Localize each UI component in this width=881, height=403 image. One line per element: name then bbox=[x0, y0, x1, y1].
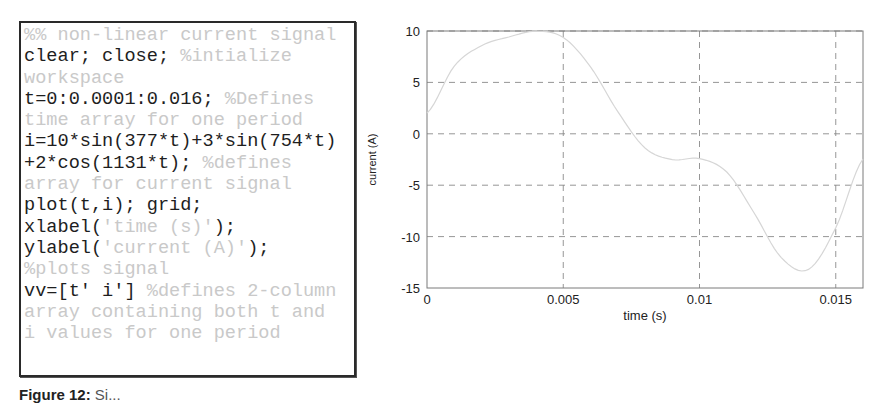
current-curve bbox=[427, 31, 863, 271]
x-axis-label: time (s) bbox=[623, 308, 666, 323]
axis-ticks: 1050-5-10-1500.0050.010.015 bbox=[401, 24, 852, 307]
caption-text: Si... bbox=[95, 386, 121, 403]
x-tick-label: 0 bbox=[423, 292, 430, 307]
y-tick-label: -15 bbox=[401, 281, 420, 296]
figure-caption: Figure 12: Si... bbox=[19, 386, 121, 403]
x-tick-label: 0.015 bbox=[819, 292, 852, 307]
y-tick-label: 5 bbox=[413, 75, 420, 90]
plot-frame bbox=[427, 31, 863, 288]
y-tick-label: -10 bbox=[401, 230, 420, 245]
x-tick-label: 0.01 bbox=[687, 292, 712, 307]
y-axis-label: current (A) bbox=[366, 134, 378, 186]
grid-lines bbox=[427, 31, 863, 288]
caption-label: Figure 12: bbox=[19, 386, 91, 403]
x-tick-label: 0.005 bbox=[547, 292, 580, 307]
y-tick-label: 10 bbox=[406, 24, 420, 39]
y-tick-label: 0 bbox=[413, 127, 420, 142]
y-tick-label: -5 bbox=[408, 178, 420, 193]
